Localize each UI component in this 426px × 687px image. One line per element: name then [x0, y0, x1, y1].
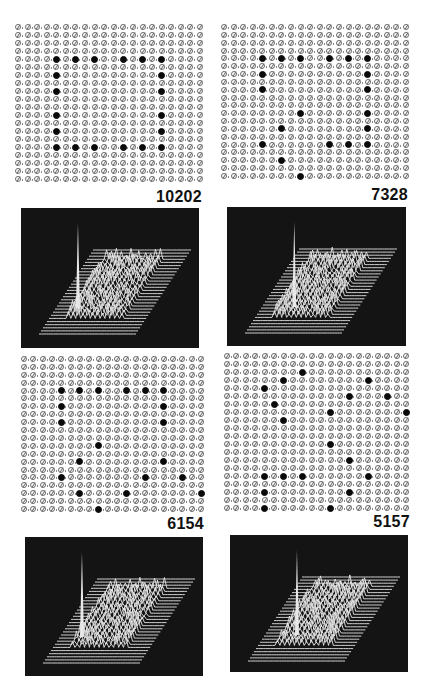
- ring-dot: [68, 403, 74, 409]
- separator-mark: [259, 396, 260, 398]
- separator-mark: [137, 91, 138, 93]
- ring-dot: [326, 40, 332, 46]
- separator-mark: [127, 35, 128, 37]
- ring-dot: [170, 506, 176, 512]
- ring-dot: [290, 433, 296, 439]
- ring-dot: [346, 401, 352, 407]
- separator-mark: [140, 422, 141, 424]
- ring-dot: [384, 142, 390, 148]
- ring-dot: [271, 441, 277, 447]
- ring-dot: [307, 142, 313, 148]
- separator-mark: [401, 372, 402, 374]
- ring-dot: [243, 385, 249, 391]
- separator-mark: [391, 27, 392, 29]
- separator-mark: [353, 452, 354, 454]
- ring-dot: [133, 388, 139, 394]
- ring-dot: [198, 403, 204, 409]
- separator-mark: [400, 152, 401, 154]
- ring-dot: [365, 48, 371, 54]
- ring-dot: [328, 393, 334, 399]
- ring-dot: [309, 425, 315, 431]
- separator-mark: [333, 66, 334, 68]
- separator-mark: [37, 485, 38, 487]
- ring-dot: [346, 385, 352, 391]
- ring-dot: [243, 425, 249, 431]
- ring-dot: [82, 144, 88, 150]
- ring-dot: [151, 467, 157, 473]
- ring-dot: [40, 380, 46, 386]
- ring-dot: [82, 120, 88, 126]
- ring-dot: [179, 372, 185, 378]
- separator-mark: [79, 147, 80, 149]
- ring-dot: [240, 110, 246, 116]
- separator-mark: [137, 155, 138, 157]
- ring-dot: [168, 120, 174, 126]
- separator-mark: [108, 35, 109, 37]
- filled-dot: [297, 110, 304, 117]
- separator-mark: [324, 51, 325, 53]
- separator-mark: [269, 452, 270, 454]
- separator-mark: [362, 152, 363, 154]
- ring-dot: [30, 451, 36, 457]
- separator-mark: [250, 428, 251, 430]
- ring-dot: [309, 385, 315, 391]
- separator-mark: [333, 145, 334, 147]
- separator-mark: [276, 82, 277, 84]
- ring-dot: [271, 465, 277, 471]
- separator-mark: [130, 470, 131, 472]
- ring-dot: [114, 380, 120, 386]
- separator-mark: [353, 380, 354, 382]
- separator-mark: [305, 145, 306, 147]
- separator-mark: [306, 444, 307, 446]
- separator-mark: [240, 420, 241, 422]
- filled-dot: [53, 144, 60, 151]
- ring-dot: [189, 395, 195, 401]
- separator-mark: [297, 452, 298, 454]
- ring-dot: [34, 120, 40, 126]
- separator-mark: [382, 468, 383, 470]
- separator-mark: [240, 388, 241, 390]
- ring-dot: [179, 498, 185, 504]
- separator-mark: [37, 414, 38, 416]
- ring-dot: [120, 168, 126, 174]
- separator-mark: [240, 396, 241, 398]
- ring-dot: [58, 395, 64, 401]
- ring-dot: [96, 395, 102, 401]
- ring-dot: [49, 498, 55, 504]
- separator-mark: [278, 492, 279, 494]
- separator-mark: [121, 462, 122, 464]
- ring-dot: [393, 149, 399, 155]
- separator-mark: [324, 66, 325, 68]
- separator-mark: [70, 83, 71, 85]
- ring-dot: [307, 149, 313, 155]
- ring-dot: [336, 173, 342, 179]
- ring-dot: [393, 24, 399, 30]
- ring-dot: [58, 459, 64, 465]
- separator-mark: [306, 420, 307, 422]
- ring-dot: [262, 481, 268, 487]
- ring-dot: [170, 403, 176, 409]
- ring-dot: [111, 40, 117, 46]
- ring-dot: [336, 32, 342, 38]
- ring-dot: [298, 32, 304, 38]
- separator-mark: [288, 500, 289, 502]
- separator-mark: [70, 123, 71, 125]
- separator-mark: [112, 430, 113, 432]
- ring-dot: [133, 411, 139, 417]
- ring-dot: [221, 102, 227, 108]
- separator-mark: [103, 470, 104, 472]
- filled-dot: [160, 387, 167, 394]
- ring-dot: [355, 95, 361, 101]
- ring-dot: [374, 142, 380, 148]
- separator-mark: [103, 406, 104, 408]
- ring-dot: [123, 482, 129, 488]
- ring-dot: [189, 356, 195, 362]
- ring-dot: [179, 364, 185, 370]
- ring-dot: [298, 79, 304, 85]
- ring-dot: [63, 160, 69, 166]
- ring-dot: [197, 40, 203, 46]
- ring-dot: [15, 24, 21, 30]
- ring-dot: [356, 369, 362, 375]
- separator-mark: [56, 446, 57, 448]
- separator-mark: [79, 123, 80, 125]
